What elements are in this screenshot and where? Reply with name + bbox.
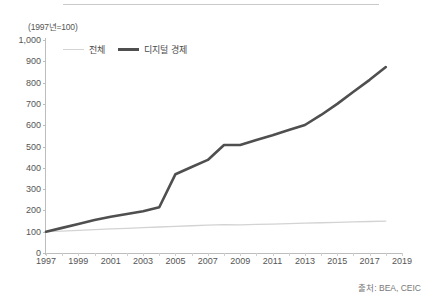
source-note: 출처: BEA, CEIC — [358, 281, 421, 293]
chart-series-layer — [0, 0, 429, 301]
series-line-digital-economy — [46, 67, 386, 232]
chart-figure: (1997년=100) 전체 디지털 경제 010020030040050060… — [0, 0, 429, 301]
series-line-total — [46, 221, 386, 232]
